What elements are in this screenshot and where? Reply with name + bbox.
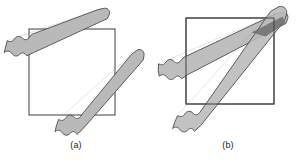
panel-b-illustration — [152, 0, 304, 140]
figure-container: (a) (b) — [0, 0, 304, 167]
panel-a-illustration — [0, 0, 152, 140]
panel-b: (b) — [152, 0, 304, 167]
panel-a: (a) — [0, 0, 152, 167]
strip-upper-a — [4, 8, 109, 56]
panel-a-caption: (a) — [0, 140, 152, 150]
strip-lower-a — [55, 50, 144, 136]
panel-b-caption: (b) — [152, 140, 304, 150]
